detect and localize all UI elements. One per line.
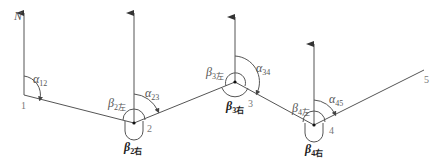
point-label-4: 4 xyxy=(329,126,334,136)
right-angle-label-4: β4右 xyxy=(305,143,323,158)
azimuth-label-23: α23 xyxy=(145,87,159,102)
north-label: N xyxy=(14,10,22,22)
left-angle-label-4: β4左 xyxy=(292,102,310,117)
left-angle-label-2: β2左 xyxy=(108,97,126,112)
traverse-diagram: N 1 2 3 4 5 α12 α23 α34 α45 β2左 β3左 β4左 … xyxy=(0,0,439,161)
right-angle-arc-3 xyxy=(222,88,248,97)
traverse-line xyxy=(24,70,424,125)
point-label-1: 1 xyxy=(21,101,26,111)
station-dot-3 xyxy=(233,80,236,83)
left-angle-label-3: β3左 xyxy=(206,66,224,81)
station-dot-4 xyxy=(312,123,315,126)
point-label-3: 3 xyxy=(248,99,253,109)
point-label-2: 2 xyxy=(147,124,152,134)
right-angle-label-2: β2右 xyxy=(124,141,142,156)
right-angle-label-3: β3右 xyxy=(226,100,244,115)
station-dot-2 xyxy=(132,121,135,124)
point-label-5: 5 xyxy=(424,75,429,85)
azimuth-label-34: α34 xyxy=(256,62,270,77)
azimuth-label-45: α45 xyxy=(329,93,343,108)
azimuth-label-12: α12 xyxy=(33,73,47,88)
